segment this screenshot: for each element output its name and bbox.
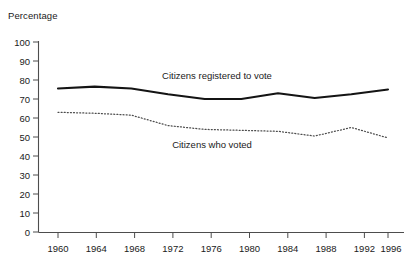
x-tick-1968: 1968 [124, 243, 145, 254]
x-tick-1996: 1996 [380, 243, 401, 254]
y-tick-60: 60 [19, 113, 30, 124]
y-axis-tick-labels: 100 90 80 70 60 50 40 30 20 10 0 [14, 37, 30, 238]
x-axis-tick-labels: 1960 1964 1968 1972 1976 1980 1984 1988 … [47, 243, 401, 254]
series-annotation-registered: Citizens registered to vote [162, 70, 272, 81]
y-tick-80: 80 [19, 75, 30, 86]
y-tick-30: 30 [19, 170, 30, 181]
x-tick-1976: 1976 [201, 243, 222, 254]
y-tick-20: 20 [19, 189, 30, 200]
y-tick-100: 100 [14, 37, 30, 48]
voter-participation-chart: Percentage 100 90 80 70 60 50 40 30 20 1… [0, 0, 417, 266]
x-tick-1988: 1988 [316, 243, 337, 254]
x-tick-1960: 1960 [47, 243, 68, 254]
y-tick-10: 10 [19, 208, 30, 219]
x-tick-1980: 1980 [239, 243, 260, 254]
x-tick-1964: 1964 [86, 243, 107, 254]
x-axis-ticks [58, 233, 388, 239]
series-line-citizens-who-voted [58, 112, 388, 138]
y-tick-90: 90 [19, 56, 30, 67]
y-tick-40: 40 [19, 151, 30, 162]
y-tick-70: 70 [19, 94, 30, 105]
chart-plot-area: 100 90 80 70 60 50 40 30 20 10 0 [0, 0, 417, 266]
series-line-citizens-registered-to-vote [58, 87, 388, 99]
y-tick-0: 0 [25, 227, 30, 238]
x-tick-1992: 1992 [354, 243, 375, 254]
y-tick-50: 50 [19, 132, 30, 143]
x-tick-1984: 1984 [277, 243, 298, 254]
x-tick-1972: 1972 [162, 243, 183, 254]
series-annotation-voted: Citizens who voted [172, 139, 252, 150]
y-axis-ticks [33, 42, 38, 232]
